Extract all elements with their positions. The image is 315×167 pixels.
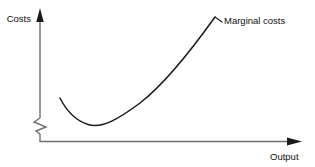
marginal-cost-diagram: Costs Output Marginal costs (0, 0, 315, 167)
marginal-costs-label: Marginal costs (224, 15, 285, 26)
diagram-canvas: Costs Output Marginal costs (0, 0, 315, 167)
y-axis-label: Costs (7, 13, 32, 24)
x-axis-label: Output (270, 151, 299, 162)
